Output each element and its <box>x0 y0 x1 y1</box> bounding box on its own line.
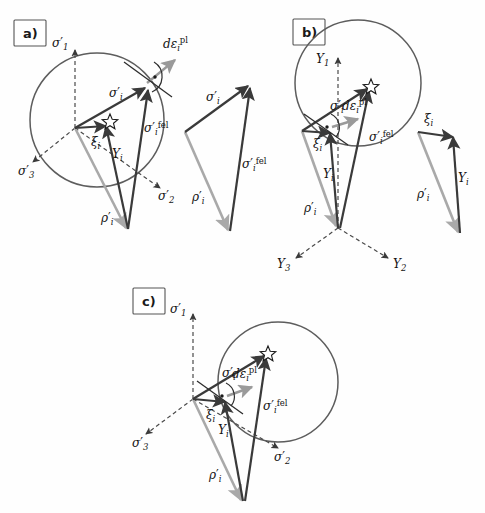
panel-a-right-angle-dot <box>153 75 156 78</box>
figure-background <box>0 0 485 513</box>
panel-b-right-angle-dot <box>325 125 328 128</box>
panel-a-label: a) <box>23 26 38 41</box>
figure-canvas: a) σ′1 σ′2 σ′3 σ′i dεipl σ′ifel ξi Yi ρ′… <box>0 0 485 513</box>
panel-c-right-angle-dot <box>220 394 223 397</box>
figure-root: a) σ′1 σ′2 σ′3 σ′i dεipl σ′ifel ξi Yi ρ′… <box>0 0 485 513</box>
panel-c-label: c) <box>142 294 156 309</box>
